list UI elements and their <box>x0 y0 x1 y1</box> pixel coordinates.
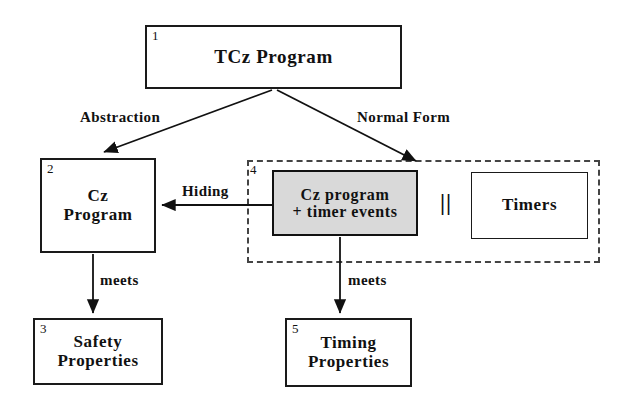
node-timers[interactable]: Timers <box>471 172 588 239</box>
edge-label-abstraction: Abstraction <box>80 109 160 126</box>
diagram-canvas: 4 || 1 TCz Program <box>0 0 627 411</box>
node-label-timers: Timers <box>502 196 557 214</box>
node-tcz-program[interactable]: 1 TCz Program <box>145 25 402 89</box>
node-label-cz-program: Cz Program <box>63 187 132 224</box>
node-label-cz-program-timer-events: Cz program + timer events <box>292 186 397 221</box>
node-number-1: 1 <box>152 29 159 42</box>
node-cz-program[interactable]: 2 Cz Program <box>40 158 156 253</box>
node-label-safety-properties: Safety Properties <box>57 333 138 370</box>
parallel-operator: || <box>440 190 452 216</box>
node-number-5: 5 <box>292 322 299 335</box>
node-timing-properties[interactable]: 5 Timing Properties <box>285 318 412 387</box>
edge-label-meets-right: meets <box>348 272 387 289</box>
node-label-timing-properties: Timing Properties <box>308 334 389 371</box>
region-number-label: 4 <box>250 163 257 176</box>
edge-label-normal-form: Normal Form <box>357 109 450 126</box>
node-number-2: 2 <box>47 162 54 175</box>
node-cz-program-timer-events[interactable]: Cz program + timer events <box>272 170 418 236</box>
node-safety-properties[interactable]: 3 Safety Properties <box>33 318 163 385</box>
node-number-3: 3 <box>40 322 47 335</box>
edge-label-meets-left: meets <box>100 272 139 289</box>
node-label-tcz-program: TCz Program <box>214 47 333 68</box>
edge-label-hiding: Hiding <box>182 183 229 200</box>
